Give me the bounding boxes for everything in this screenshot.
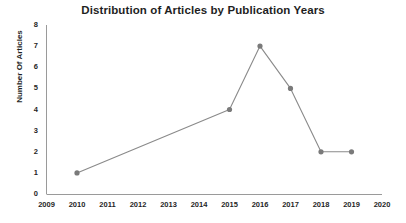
data-point-2015 bbox=[227, 107, 232, 112]
line-chart: Distribution of Articles by Publication … bbox=[0, 0, 406, 223]
x-tick-2018: 2018 bbox=[304, 200, 338, 209]
plot-area bbox=[0, 0, 406, 223]
x-tick-2013: 2013 bbox=[152, 200, 186, 209]
x-tick-2011: 2011 bbox=[91, 200, 125, 209]
data-point-2017 bbox=[288, 86, 293, 91]
x-tick-2009: 2009 bbox=[30, 200, 64, 209]
data-point-2018 bbox=[318, 149, 323, 154]
data-point-2019 bbox=[349, 149, 354, 154]
x-tick-2015: 2015 bbox=[213, 200, 247, 209]
x-tick-2014: 2014 bbox=[182, 200, 216, 209]
x-tick-2012: 2012 bbox=[121, 200, 155, 209]
x-tick-2010: 2010 bbox=[60, 200, 94, 209]
x-tick-2017: 2017 bbox=[274, 200, 308, 209]
data-line bbox=[77, 46, 352, 173]
x-tick-2019: 2019 bbox=[335, 200, 369, 209]
x-tick-2016: 2016 bbox=[243, 200, 277, 209]
x-tick-2020: 2020 bbox=[365, 200, 399, 209]
data-point-2010 bbox=[74, 170, 79, 175]
data-point-2016 bbox=[257, 44, 262, 49]
